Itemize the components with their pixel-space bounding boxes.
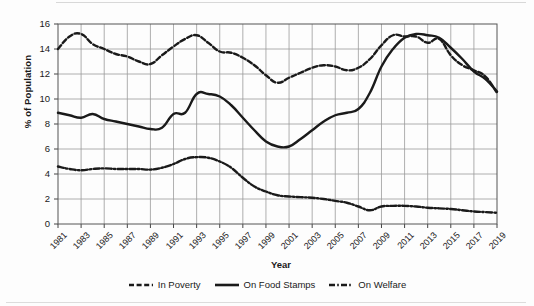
legend-swatch-icon [128, 280, 154, 290]
series-lines [58, 33, 497, 213]
series-line-on-food-stamps [58, 34, 497, 148]
legend-item[interactable]: In Poverty [128, 279, 201, 290]
legend-label: On Food Stamps [244, 279, 316, 290]
y-tick-label: 2 [28, 194, 50, 204]
y-tick-label: 6 [28, 144, 50, 154]
chart-figure: % of Population Year 1614121086420 19811… [0, 0, 534, 306]
legend-item[interactable]: On Welfare [328, 279, 406, 290]
legend-label: On Welfare [358, 279, 406, 290]
y-tick-label: 0 [28, 219, 50, 229]
y-tick-label: 10 [28, 94, 50, 104]
series-line-in-poverty [58, 33, 497, 93]
y-tick-label: 14 [28, 44, 50, 54]
x-axis-label: Year [0, 259, 534, 270]
y-tick-label: 12 [28, 69, 50, 79]
y-tick-label: 4 [28, 169, 50, 179]
legend-item[interactable]: On Food Stamps [214, 279, 316, 290]
series-line-on-welfare [58, 157, 497, 213]
chart-legend: In PovertyOn Food StampsOn Welfare [0, 279, 534, 290]
legend-swatch-icon [214, 280, 240, 290]
legend-swatch-icon [328, 280, 354, 290]
y-tick-label: 8 [28, 119, 50, 129]
legend-label: In Poverty [158, 279, 201, 290]
x-axis-label-text: Year [271, 259, 291, 270]
y-tick-label: 16 [28, 19, 50, 29]
